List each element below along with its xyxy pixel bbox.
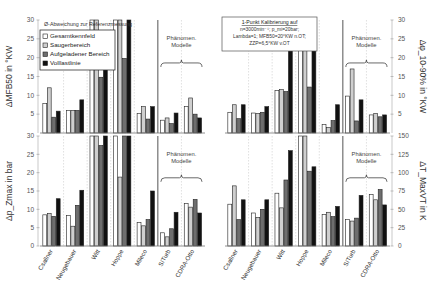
- x-category-label: Csallner: [36, 248, 53, 271]
- bar: [198, 213, 202, 246]
- svg-text:Modelle: Modelle: [356, 158, 376, 164]
- y-tick-label: 30: [27, 132, 35, 139]
- bar: [123, 136, 127, 246]
- x-category-label: Witt: [90, 248, 102, 261]
- x-category-label: CDRA-Otto: [174, 248, 196, 279]
- bar: [279, 90, 283, 133]
- y-tick-label: 5: [30, 224, 34, 231]
- bar: [369, 195, 373, 246]
- bar: [43, 104, 47, 133]
- bar: [232, 186, 236, 246]
- y-tick-label: 10: [398, 92, 406, 99]
- bar: [103, 69, 107, 133]
- bar: [378, 190, 382, 246]
- bar: [118, 20, 122, 133]
- bar: [355, 218, 359, 246]
- bar: [99, 77, 103, 133]
- bar: [346, 96, 350, 133]
- bar: [232, 105, 236, 133]
- bar: [256, 113, 260, 133]
- bar: [94, 136, 98, 246]
- bar: [383, 115, 387, 133]
- bar: [308, 87, 312, 133]
- bar: [275, 90, 279, 133]
- legend-label: Volllastlinie: [50, 59, 81, 66]
- bar: [241, 105, 245, 133]
- bar: [127, 136, 131, 246]
- bar: [184, 107, 188, 133]
- y-tick-label: 5: [30, 110, 34, 117]
- bar: [90, 136, 94, 246]
- x-category-label: Hoppe: [109, 248, 124, 268]
- y-tick-label: 10: [27, 92, 35, 99]
- bar: [265, 107, 269, 133]
- bar: [284, 180, 288, 246]
- bar: [146, 220, 150, 246]
- y-tick-label: 100: [398, 169, 409, 176]
- bar: [288, 39, 292, 133]
- calibration-note: 1-Punkt Kalibrierung aufn=3000min⁻¹; p_m…: [222, 17, 317, 51]
- bar: [228, 112, 232, 133]
- bar: [251, 213, 255, 246]
- svg-text:Phänomen.: Phänomen.: [352, 151, 382, 157]
- bar: [174, 113, 178, 133]
- x-category-label: Neugebauer: [54, 248, 77, 281]
- bar: [71, 226, 75, 246]
- svg-text:Modelle: Modelle: [171, 42, 191, 48]
- bar: [378, 117, 382, 133]
- bar: [327, 127, 331, 133]
- y-tick-label: 25: [398, 224, 406, 231]
- bar: [66, 216, 70, 246]
- y-tick-label: 10: [27, 206, 35, 213]
- bar: [279, 208, 283, 246]
- bar: [251, 113, 255, 133]
- bar: [80, 100, 84, 133]
- bar: [52, 216, 56, 246]
- svg-text:Modelle: Modelle: [356, 42, 376, 48]
- bar: [288, 151, 292, 246]
- y-tick-label: 20: [398, 54, 406, 61]
- bar: [103, 136, 107, 246]
- bar: [241, 200, 245, 246]
- x-category-label: Witt: [275, 248, 287, 261]
- y-tick-label: 15: [27, 187, 35, 194]
- bar: [71, 110, 75, 133]
- bar: [161, 120, 165, 133]
- bar: [350, 221, 354, 246]
- bar: [170, 229, 174, 246]
- bar: [308, 171, 312, 246]
- y-axis-label: Δφ_10-90% in °KW: [418, 40, 428, 114]
- bar: [193, 114, 197, 133]
- chart-panel-bottom-left: 051015202530Δp_Zmax in barPhänomen.Model…: [4, 132, 205, 281]
- y-tick-label: 150: [398, 132, 409, 139]
- bar: [260, 209, 264, 246]
- bar: [359, 100, 363, 133]
- bar: [151, 107, 155, 133]
- bar: [275, 193, 279, 246]
- y-tick-label: 15: [398, 73, 406, 80]
- bar: [161, 233, 165, 246]
- bar: [189, 98, 193, 133]
- bar: [137, 113, 141, 133]
- bar: [66, 110, 70, 133]
- bar: [56, 111, 60, 133]
- chart-panel-bottom-right: 0255075100125150ΔT_MaxVT in KPhänomen.Mo…: [221, 132, 428, 281]
- bar: [237, 220, 241, 246]
- y-tick-label: 30: [27, 16, 35, 23]
- bar: [146, 119, 150, 133]
- bar: [260, 112, 264, 133]
- calibration-line: n=3000min⁻¹; p_mi=20bar;: [240, 27, 299, 32]
- bar: [331, 121, 335, 133]
- bar: [312, 49, 316, 133]
- legend-label: Aufgeladener Bereich: [50, 50, 110, 57]
- figure: 51015202530ΔMFB50 in °KWPhänomen.Modelle…: [0, 0, 431, 296]
- bar: [284, 92, 288, 133]
- x-category-label: Mileco: [133, 248, 148, 267]
- bar: [47, 88, 51, 133]
- bar: [114, 136, 118, 246]
- bar: [327, 212, 331, 246]
- legend-swatch: [43, 52, 48, 57]
- x-category-label: SITurb: [156, 248, 172, 268]
- y-tick-label: 0: [398, 242, 402, 249]
- legend-title-text: Ø-Abweichung zur Referenzmessung: [44, 21, 132, 27]
